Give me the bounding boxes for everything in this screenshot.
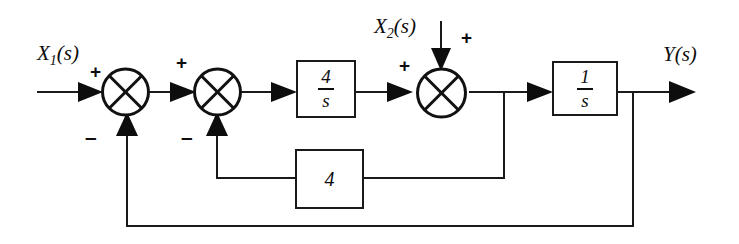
sign-plus-sum1-left: +	[90, 62, 101, 81]
block-diagram-figure: X1(s) X2(s) Y(s) + + + + – – 4 s 1 s 4	[0, 0, 739, 244]
sign-minus-sum1-bottom: –	[85, 126, 97, 147]
block-1s-numerator: 1	[577, 67, 593, 88]
summing-junction-3	[418, 69, 466, 117]
arrowhead-into-sum2	[170, 82, 196, 102]
sign-minus-sum2-bottom: –	[181, 126, 193, 147]
arrowhead-into-sum3	[387, 82, 413, 102]
label-input-x2-base: X	[374, 14, 387, 38]
arrowhead-output-y	[669, 81, 696, 103]
block-gain-4-value: 4	[325, 168, 335, 191]
label-input-x1-base: X	[37, 41, 50, 65]
label-output-y: Y(s)	[663, 44, 697, 65]
label-input-x2: X2(s)	[374, 16, 416, 41]
label-input-x1: X1(s)	[37, 43, 79, 68]
block-4s-numerator: 4	[318, 67, 334, 88]
block-4s-denominator: s	[318, 88, 334, 111]
sign-plus-sum2-left: +	[176, 53, 187, 72]
label-input-x2-subscript: 2	[387, 26, 394, 41]
arrowhead-into-sum1	[78, 82, 103, 102]
block-1s-denominator: s	[577, 88, 593, 111]
label-output-y-base: Y	[663, 42, 675, 66]
block-label-1-over-s: 1 s	[553, 62, 617, 115]
label-input-x2-arg: (s)	[394, 14, 416, 38]
label-output-y-arg: (s)	[675, 42, 697, 66]
label-input-x1-subscript: 1	[50, 53, 57, 68]
diagram-canvas	[0, 0, 739, 244]
summing-junction-1	[103, 69, 149, 115]
summing-junction-2	[195, 69, 241, 115]
label-input-x1-arg: (s)	[57, 41, 79, 65]
sign-plus-sum3-top: +	[461, 28, 472, 47]
arrowhead-into-block-4s	[271, 82, 297, 102]
block-label-gain-4: 4	[296, 150, 363, 208]
block-label-4-over-s: 4 s	[297, 61, 355, 117]
arrowhead-into-integrator	[527, 82, 553, 102]
sign-plus-sum3-left: +	[399, 56, 410, 75]
